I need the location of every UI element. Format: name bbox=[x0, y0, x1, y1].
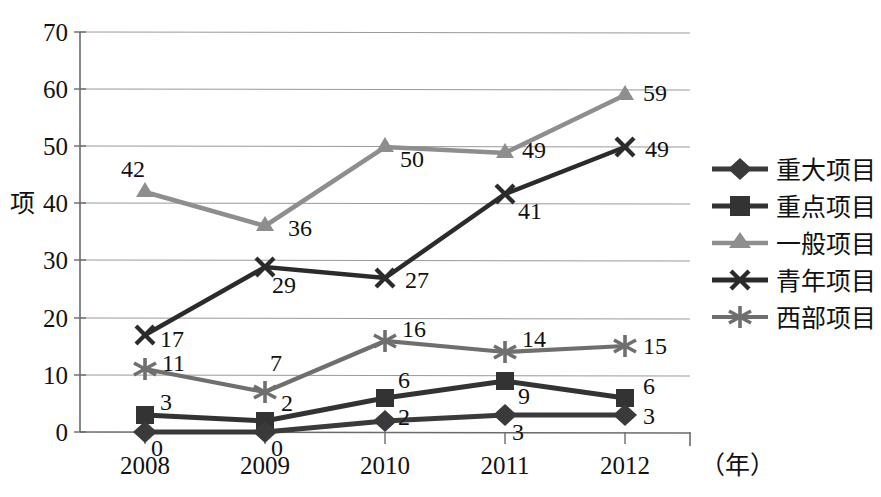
y-tick-label-50: 50 bbox=[43, 133, 68, 160]
data-label-zhongda-2009: 0 bbox=[271, 435, 283, 461]
x-tick-label-2012: 2012 bbox=[600, 452, 650, 479]
gridlines bbox=[80, 32, 690, 376]
x-axis-unit-label: （年） bbox=[700, 452, 775, 479]
triangle-icon bbox=[729, 232, 751, 248]
series-yiban-marker bbox=[376, 137, 394, 152]
legend-item-zhongda[interactable]: 重大项目 bbox=[712, 157, 876, 184]
data-label-zhongdian-2009: 2 bbox=[281, 390, 293, 416]
y-tick-label-20: 20 bbox=[43, 305, 68, 332]
data-label-xibu-2012: 15 bbox=[643, 333, 667, 359]
data-label-zhongda-2011: 3 bbox=[512, 419, 524, 445]
x-tick-label-2010: 2010 bbox=[360, 452, 410, 479]
data-label-xibu-2008: 11 bbox=[162, 350, 185, 376]
legend-item-qingnian[interactable]: 青年项目 bbox=[712, 268, 876, 295]
x-tick-label-2011: 2011 bbox=[480, 452, 529, 479]
line-chart: 70 60 50 40 30 20 10 0 项 2008 2009 2010 … bbox=[0, 0, 881, 497]
data-label-zhongdian-2012: 6 bbox=[643, 373, 655, 399]
series-qingnian-line bbox=[145, 147, 625, 335]
data-label-xibu-2010: 16 bbox=[402, 316, 426, 342]
data-label-yiban-2012: 59 bbox=[643, 80, 667, 106]
series-yiban bbox=[136, 85, 634, 231]
chart-canvas: 70 60 50 40 30 20 10 0 项 2008 2009 2010 … bbox=[0, 0, 881, 497]
data-label-qingnian-2010: 27 bbox=[405, 267, 429, 293]
series-yiban-line bbox=[145, 95, 625, 226]
data-label-zhongda-2008: 0 bbox=[151, 435, 163, 461]
legend-label-qingnian: 青年项目 bbox=[776, 268, 876, 295]
y-tick-label-60: 60 bbox=[43, 76, 68, 103]
axis-lines bbox=[80, 32, 690, 446]
legend-item-xibu[interactable]: 西部项目 bbox=[712, 305, 876, 332]
y-tick-label-70: 70 bbox=[43, 19, 68, 46]
legend-item-zhongdian[interactable]: 重点项目 bbox=[712, 194, 876, 221]
data-label-xibu-2011: 14 bbox=[522, 326, 546, 352]
data-label-zhongda-2010: 2 bbox=[398, 404, 410, 430]
data-label-yiban-2011: 49 bbox=[522, 137, 546, 163]
y-tick-labels: 70 60 50 40 30 20 10 0 bbox=[43, 19, 68, 446]
data-label-qingnian-2011: 41 bbox=[518, 198, 542, 224]
legend-item-yiban[interactable]: 一般项目 bbox=[712, 231, 876, 258]
data-label-qingnian-2012: 49 bbox=[645, 136, 669, 162]
data-label-yiban-2009: 36 bbox=[288, 215, 312, 241]
x-tick-labels: 2008 2009 2010 2011 2012 bbox=[120, 452, 650, 479]
data-label-yiban-2010: 50 bbox=[400, 146, 424, 172]
data-label-zhongdian-2011: 9 bbox=[518, 383, 530, 409]
series-qingnian bbox=[136, 138, 634, 344]
legend-label-zhongda: 重大项目 bbox=[776, 157, 876, 184]
data-label-zhongda-2012: 3 bbox=[643, 403, 655, 429]
data-label-qingnian-2009: 29 bbox=[272, 272, 296, 298]
series-qingnian-markers bbox=[136, 138, 634, 344]
legend-label-yiban: 一般项目 bbox=[776, 231, 876, 258]
y-axis-title: 项 bbox=[10, 190, 35, 217]
y-tick-label-0: 0 bbox=[56, 419, 69, 446]
series-zhongda-marker bbox=[373, 410, 397, 432]
y-tick-label-40: 40 bbox=[43, 190, 68, 217]
y-tick-label-10: 10 bbox=[43, 362, 68, 389]
data-label-zhongdian-2010: 6 bbox=[398, 367, 410, 393]
series-zhongdian-marker bbox=[376, 389, 394, 407]
series-yiban-marker bbox=[616, 85, 634, 100]
diamond-icon bbox=[728, 158, 752, 180]
y-tick-label-30: 30 bbox=[43, 247, 68, 274]
legend-label-xibu: 西部项目 bbox=[776, 305, 876, 332]
data-label-xibu-2009: 7 bbox=[270, 350, 282, 376]
data-label-zhongdian-2008: 3 bbox=[160, 389, 172, 415]
series-zhongdian-marker bbox=[496, 372, 514, 390]
series-yiban-marker bbox=[136, 182, 154, 197]
series-zhongda-marker bbox=[613, 404, 637, 426]
chart-legend: 重大项目 重点项目 一般项目 青年项目 bbox=[712, 157, 876, 332]
square-icon bbox=[730, 196, 750, 216]
legend-label-zhongdian: 重点项目 bbox=[776, 194, 876, 221]
data-label-yiban-2008: 42 bbox=[121, 156, 145, 182]
data-label-qingnian-2008: 17 bbox=[160, 326, 184, 352]
